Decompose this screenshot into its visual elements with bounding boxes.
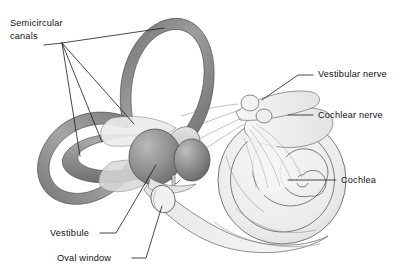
- label-vestibule: Vestibule: [50, 228, 89, 238]
- vestibular-ganglion: [241, 95, 259, 111]
- cochlear-ganglion: [256, 109, 272, 123]
- leader-oval-window: [132, 206, 162, 258]
- label-vestibular-nerve: Vestibular nerve: [318, 69, 387, 79]
- label-oval-window: Oval window: [57, 253, 111, 263]
- stapes-post: [172, 175, 175, 187]
- label-cochlea: Cochlea: [341, 175, 377, 185]
- label-cochlear-nerve: Cochlear nerve: [318, 110, 383, 120]
- label-semicircular-canals-line2: canals: [10, 31, 38, 41]
- label-semicircular-canals-line1: Semicircular: [10, 18, 63, 28]
- saccule: [174, 139, 210, 181]
- leader-semicircular-stem: [44, 43, 62, 45]
- inner-ear-diagram: Semicircular canals Vestibular nerve Coc…: [0, 0, 406, 277]
